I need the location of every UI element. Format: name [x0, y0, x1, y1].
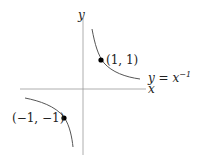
hyperbola-diagram: y x (1, 1) (−1, −1) y = x−1	[0, 0, 201, 162]
point-label-neg1-neg1: (−1, −1)	[12, 111, 64, 125]
point-1-1	[98, 57, 103, 62]
point-label-1-1: (1, 1)	[106, 53, 138, 67]
function-label: y = x−1	[147, 70, 191, 85]
y-axis-label: y	[77, 8, 85, 22]
